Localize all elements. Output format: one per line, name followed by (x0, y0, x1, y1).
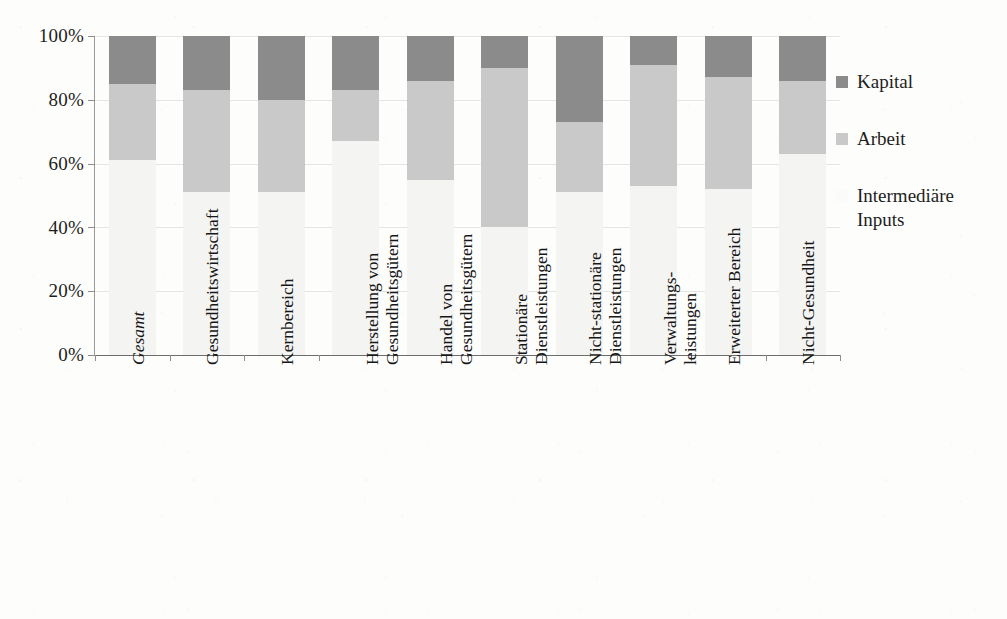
bar-segment-kapital (407, 36, 454, 81)
y-tick-label-0: 0% (18, 345, 84, 364)
x-label-7-line-1: Nicht-stationäre (585, 247, 605, 365)
bar-segment-arbeit (407, 81, 454, 180)
bar-segment-kapital (705, 36, 752, 77)
x-label-5-line-1: Handel von (436, 234, 456, 365)
chart-legend: Kapital Arbeit Intermediäre Inputs (836, 70, 1001, 232)
bar-segment-arbeit (630, 65, 677, 186)
x-label-1-line-1: Gesamt (128, 312, 148, 365)
bar-segment-kapital (332, 36, 379, 90)
chart-page: 100% 80% 60% 40% 20% 0% GesamtGesundheit… (0, 0, 1007, 619)
y-tick-label-60: 60% (18, 154, 84, 173)
x-label-4-line-1: Herstellung von (362, 234, 382, 365)
x-label-5: Handel vonGesundheitsgütern (436, 234, 476, 365)
x-label-4: Herstellung vonGesundheitsgütern (362, 234, 402, 365)
x-label-7-line-2: Dienstleistungen (605, 247, 625, 365)
x-label-1: Gesamt (128, 312, 148, 365)
x-label-7: Nicht-stationäreDienstleistungen (585, 247, 625, 365)
y-tick-100 (88, 36, 95, 37)
x-label-3-line-1: Kernbereich (277, 279, 297, 365)
y-tick-label-20: 20% (18, 281, 84, 300)
y-axis-tick-labels: 100% 80% 60% 40% 20% 0% (14, 36, 84, 355)
y-tick-80 (88, 100, 95, 101)
x-label-9: Erweiterter Bereich (724, 228, 744, 366)
x-label-8-line-2: leistungen (680, 272, 700, 365)
bar-segment-arbeit (183, 90, 230, 192)
y-tick-0 (88, 355, 95, 356)
legend-swatch-arbeit-icon (836, 133, 848, 145)
x-label-10: Nicht-Gesundheit (798, 241, 818, 365)
bar-segment-kapital (183, 36, 230, 90)
x-axis-category-labels: GesamtGesundheitswirtschaftKernbereichHe… (95, 355, 840, 605)
x-label-6: StationäreDienstleistungen (511, 247, 551, 365)
legend-label-line1: Intermediäre (857, 185, 954, 206)
bar-segment-kapital (258, 36, 305, 100)
x-label-10-line-1: Nicht-Gesundheit (798, 241, 818, 365)
bar-segment-kapital (556, 36, 603, 122)
x-label-3: Kernbereich (277, 279, 297, 365)
bar-segment-kapital (481, 36, 528, 68)
legend-label-kapital: Kapital (857, 70, 913, 94)
legend-label-intermediaere-inputs: Intermediäre Inputs (857, 184, 954, 232)
legend-label-arbeit: Arbeit (857, 127, 906, 151)
y-tick-40 (88, 227, 95, 228)
y-tick-label-40: 40% (18, 218, 84, 237)
y-tick-label-100: 100% (18, 26, 84, 45)
y-tick-60 (88, 164, 95, 165)
y-tick-label-80: 80% (18, 90, 84, 109)
bar-segment-arbeit (481, 68, 528, 228)
legend-item-arbeit: Arbeit (836, 127, 1001, 151)
bar-segment-arbeit (109, 84, 156, 161)
x-label-2: Gesundheitswirtschaft (202, 209, 222, 366)
x-tick-10 (840, 355, 841, 361)
bar-segment-arbeit (556, 122, 603, 192)
x-label-8-line-1: Verwaltungs- (660, 272, 680, 365)
x-label-4-line-2: Gesundheitsgütern (382, 234, 402, 365)
bar-1 (109, 36, 156, 355)
y-axis-line (94, 36, 95, 355)
legend-item-intermediaere-inputs: Intermediäre Inputs (836, 184, 1001, 232)
x-label-5-line-2: Gesundheitsgütern (456, 234, 476, 365)
x-label-9-line-1: Erweiterter Bereich (724, 228, 744, 366)
y-tick-20 (88, 291, 95, 292)
x-label-8: Verwaltungs-leistungen (660, 272, 700, 365)
bar-segment-kapital (109, 36, 156, 84)
legend-item-kapital: Kapital (836, 70, 1001, 94)
x-label-6-line-1: Stationäre (511, 247, 531, 365)
legend-swatch-kapital-icon (836, 76, 848, 88)
bar-segment-arbeit (779, 81, 826, 154)
bar-segment-kapital (630, 36, 677, 65)
legend-label-line2: Inputs (857, 209, 905, 230)
legend-swatch-intermediaere-inputs-icon (836, 190, 848, 202)
bar-segment-kapital (779, 36, 826, 81)
bar-segment-arbeit (332, 90, 379, 141)
bar-segment-arbeit (705, 77, 752, 189)
bar-segment-arbeit (258, 100, 305, 193)
x-label-2-line-1: Gesundheitswirtschaft (202, 209, 222, 366)
x-label-6-line-2: Dienstleistungen (531, 247, 551, 365)
